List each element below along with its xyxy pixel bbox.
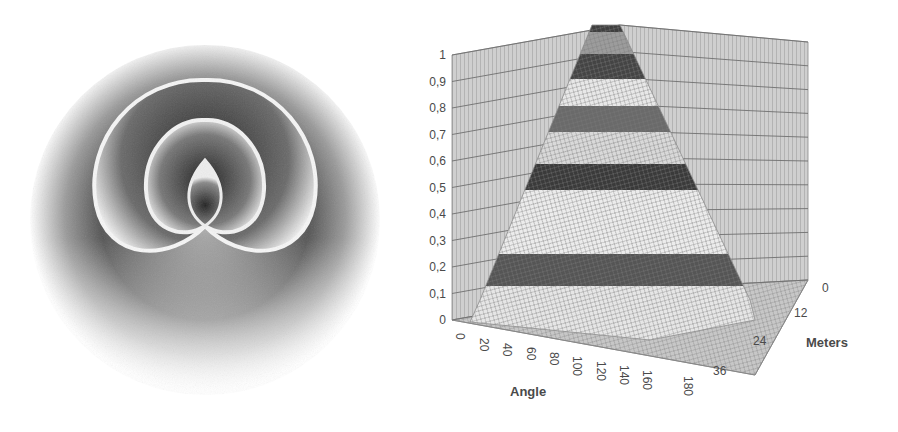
x-tick: 100 bbox=[570, 356, 584, 376]
x-tick: 160 bbox=[640, 370, 654, 390]
z-tick: 0,3 bbox=[429, 234, 446, 248]
figure: 0 0,1 0,2 0,3 0,4 0,5 0,6 0,7 0,8 0,9 1 … bbox=[0, 0, 898, 432]
z-tick: 0,1 bbox=[429, 287, 446, 301]
x-tick: 0 bbox=[453, 333, 467, 340]
x-tick: 20 bbox=[477, 338, 491, 352]
surface-chart: 0 0,1 0,2 0,3 0,4 0,5 0,6 0,7 0,8 0,9 1 … bbox=[429, 20, 848, 399]
y-tick: 12 bbox=[794, 306, 808, 320]
x-axis-title: Angle bbox=[510, 384, 546, 399]
y-axis-title: Meters bbox=[806, 335, 848, 350]
x-tick: 120 bbox=[594, 361, 608, 381]
x-tick: 40 bbox=[500, 343, 514, 357]
z-tick: 0 bbox=[439, 313, 446, 327]
x-tick: 180 bbox=[681, 376, 695, 396]
x-tick: 80 bbox=[547, 352, 561, 366]
y-tick: 36 bbox=[713, 364, 727, 378]
x-tick: 60 bbox=[524, 347, 538, 361]
z-tick: 0,7 bbox=[429, 128, 446, 142]
y-tick: 24 bbox=[753, 334, 767, 348]
z-tick: 0,4 bbox=[429, 207, 446, 221]
z-axis-ticks: 0 0,1 0,2 0,3 0,4 0,5 0,6 0,7 0,8 0,9 1 bbox=[429, 48, 446, 327]
polar-intensity-plot bbox=[30, 40, 380, 400]
y-tick: 0 bbox=[822, 281, 829, 295]
z-tick: 1 bbox=[439, 48, 446, 62]
z-tick: 0,2 bbox=[429, 260, 446, 274]
z-tick: 0,8 bbox=[429, 101, 446, 115]
z-tick: 0,5 bbox=[429, 181, 446, 195]
z-tick: 0,6 bbox=[429, 154, 446, 168]
z-tick: 0,9 bbox=[429, 75, 446, 89]
x-tick: 140 bbox=[617, 365, 631, 385]
